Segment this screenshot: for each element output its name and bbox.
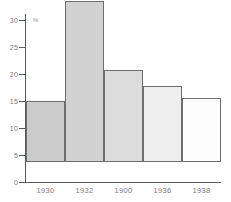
y-tick-30 — [19, 20, 26, 21]
x-axis-labels: 19301932190019361938 — [26, 186, 221, 200]
y-tick-20 — [19, 74, 26, 75]
bar-1900 — [104, 70, 143, 162]
bar-1932 — [65, 1, 104, 162]
y-tick-label: 30 — [0, 17, 18, 24]
y-tick-10 — [19, 128, 26, 129]
y-tick-label: 15 — [0, 98, 18, 105]
bar-chart: % 051015202530 19301932190019361938 — [0, 0, 231, 202]
y-tick-15 — [19, 101, 26, 102]
bar-1930 — [26, 101, 65, 162]
x-label-1932: 1932 — [65, 186, 104, 195]
bar-1936 — [143, 86, 182, 162]
x-label-1900: 1900 — [104, 186, 143, 195]
y-tick-label: 25 — [0, 44, 18, 51]
y-tick-5 — [19, 155, 26, 156]
x-label-1936: 1936 — [143, 186, 182, 195]
y-tick-label: 5 — [0, 152, 18, 159]
x-label-1938: 1938 — [182, 186, 221, 195]
y-tick-label: 10 — [0, 125, 18, 132]
y-tick-25 — [19, 47, 26, 48]
bar-series — [26, 0, 221, 182]
y-tick-0 — [19, 182, 26, 183]
x-label-1930: 1930 — [26, 186, 65, 195]
bar-1938 — [182, 98, 221, 162]
x-axis-line — [25, 182, 221, 183]
y-tick-label: 20 — [0, 71, 18, 78]
y-tick-label: 0 — [0, 179, 18, 186]
